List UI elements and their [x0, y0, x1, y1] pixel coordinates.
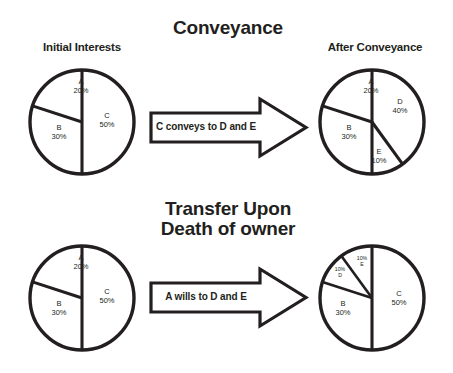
pie-chart-after-death: 10% D 10% E B 30% C 50%	[312, 238, 432, 358]
pie-slice-label-b: B 30%	[42, 300, 76, 317]
slice-name-b: B	[346, 123, 351, 132]
slice-name-a: A	[78, 253, 83, 262]
slice-name-b: B	[340, 299, 345, 308]
arrow-c-conveys: C conveys to D and E	[148, 96, 310, 160]
pie-slice-label-b: B 30%	[326, 300, 360, 317]
heading-after-conveyance: After Conveyance	[305, 41, 445, 53]
pie-chart-after-conveyance: A 20% B 30% D 40% E 10%	[312, 62, 432, 182]
slice-pct-b: 30%	[42, 309, 76, 318]
slice-name-d: D	[329, 273, 351, 279]
slice-name-d: D	[397, 97, 402, 106]
slice-name-e: E	[351, 262, 373, 268]
pie-slice-label-d: D 40%	[383, 98, 417, 115]
slice-name-a: A	[78, 77, 83, 86]
pie-slice-label-c: C 50%	[382, 290, 416, 307]
slice-pct-a: 20%	[354, 87, 388, 96]
pie-chart-initial-interests-bottom: A 20% B 30% C 50%	[22, 238, 142, 358]
slice-pct-d: 40%	[383, 107, 417, 116]
slice-name-c: C	[104, 111, 109, 120]
arrow-label-c-conveys: C conveys to D and E	[154, 121, 258, 132]
slice-pct-b: 30%	[42, 133, 76, 142]
pie-slice-label-d: 10% D	[329, 267, 351, 279]
slice-pct-c: 50%	[90, 297, 124, 306]
pie-chart-initial-interests-top: A 20% B 30% C 50%	[22, 62, 142, 182]
slice-pct-c: 50%	[90, 121, 124, 130]
section-title-transfer-line1: Transfer Upon	[133, 199, 323, 219]
arrow-a-wills: A wills to D and E	[148, 266, 310, 330]
slice-name-b: B	[56, 299, 61, 308]
pie-slice-label-a: A 20%	[64, 254, 98, 271]
slice-pct-c: 50%	[382, 299, 416, 308]
heading-initial-interests-top: Initial Interests	[12, 41, 152, 53]
slice-name-b: B	[56, 123, 61, 132]
section-title-transfer-line2: Death of owner	[133, 219, 323, 239]
slice-name-c: C	[104, 287, 109, 296]
slice-pct-a: 20%	[64, 263, 98, 272]
slice-pct-b: 30%	[326, 309, 360, 318]
diagram-canvas: Conveyance Initial Interests After Conve…	[0, 0, 453, 373]
slice-pct-a: 20%	[64, 87, 98, 96]
pie-slice-label-a: A 20%	[64, 78, 98, 95]
slice-pct-e: 10%	[366, 157, 392, 166]
slice-pct-b: 30%	[332, 133, 366, 142]
pie-slice-label-b: B 30%	[332, 124, 366, 141]
pie-slice-label-e: 10% E	[351, 256, 373, 268]
slice-name-a: A	[368, 77, 373, 86]
pie-slice-label-b: B 30%	[42, 124, 76, 141]
slice-name-c: C	[396, 289, 401, 298]
pie-slice-label-e: E 10%	[366, 148, 392, 165]
pie-slice-label-c: C 50%	[90, 112, 124, 129]
slice-name-e: E	[376, 147, 381, 156]
section-title-conveyance: Conveyance	[133, 18, 323, 38]
arrow-label-a-wills: A wills to D and E	[158, 291, 254, 302]
pie-slice-label-c: C 50%	[90, 288, 124, 305]
pie-slice-label-a: A 20%	[354, 78, 388, 95]
